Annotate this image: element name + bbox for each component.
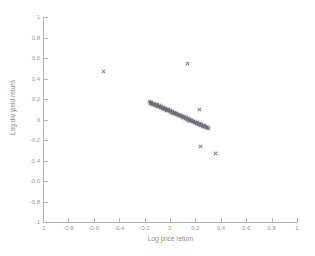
- y-axis-label: Log div yield return: [9, 63, 16, 153]
- y-tick-mark: [44, 222, 48, 223]
- y-tick-label: 1: [8, 13, 40, 21]
- y-tick-label: -1: [8, 218, 40, 226]
- x-axis-label: Log price return: [43, 235, 298, 242]
- x-axis-line: [43, 222, 298, 223]
- y-tick-label: -0.6: [8, 177, 40, 185]
- y-tick-label: 0.6: [8, 54, 40, 62]
- scatter-plot-figure: -1-0.8-0.6-0.4-0.200.20.40.60.81 -1-0.8-…: [0, 0, 315, 256]
- y-tick-label: -0.4: [8, 157, 40, 165]
- y-tick-label: 0.8: [8, 34, 40, 42]
- x-tick-label: 1: [282, 224, 312, 232]
- plot-data-area: [43, 17, 297, 222]
- x-tick-mark: [297, 218, 298, 222]
- y-tick-label: -0.8: [8, 198, 40, 206]
